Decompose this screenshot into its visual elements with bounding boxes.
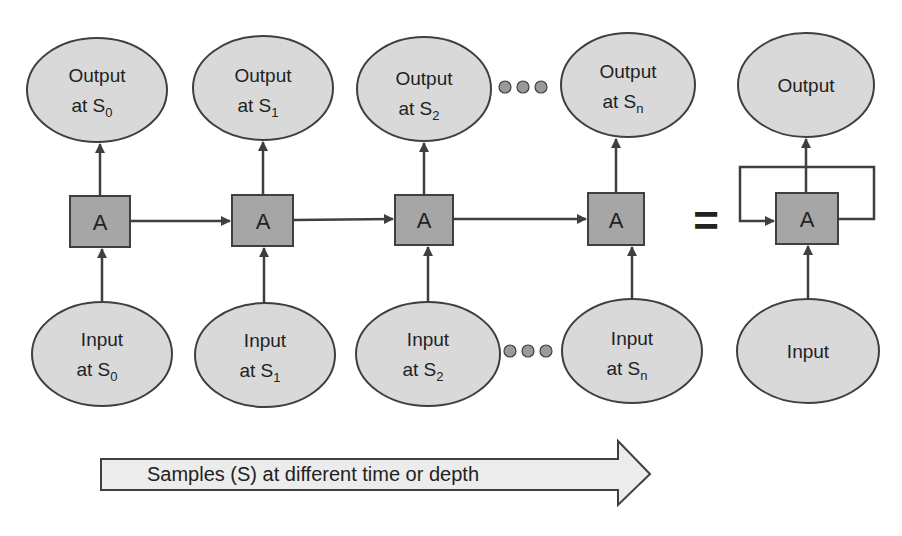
recurrent-chain-arrows — [131, 219, 586, 221]
input-label-at: at S — [76, 359, 110, 380]
input-node-sn: Input at Sn — [562, 299, 702, 403]
input-label-at: at S — [606, 358, 640, 379]
input-node-s0: Input at S0 — [32, 302, 172, 406]
output-label: Output — [777, 75, 835, 96]
input-label-at: at S — [402, 359, 436, 380]
input-node-rolled: Input — [737, 299, 879, 403]
output-node-s1: Output at S1 — [193, 36, 333, 140]
cell-a-s1: A — [232, 195, 293, 246]
output-label: Output — [68, 65, 126, 86]
input-label-at: at S — [239, 360, 273, 381]
subscript: n — [636, 101, 643, 116]
time-direction-arrow-banner: Samples (S) at different time or depth — [101, 441, 650, 505]
output-label: Output — [395, 68, 453, 89]
input-node-s2: Input at S2 — [356, 302, 500, 406]
input-label: Input — [787, 341, 830, 362]
output-node-sn: Output at Sn — [561, 33, 695, 137]
output-node-s2: Output at S2 — [357, 37, 491, 141]
output-label-at: at S — [602, 91, 636, 112]
subscript: n — [640, 368, 647, 383]
cell-a-sn: A — [588, 193, 644, 245]
subscript: 1 — [273, 370, 280, 385]
ellipsis-dots-icon — [499, 81, 547, 93]
equals-label: = — [693, 196, 719, 245]
cell-a-s2: A — [395, 195, 453, 245]
output-label: Output — [599, 61, 657, 82]
output-arrows — [100, 139, 806, 196]
ellipsis-dots-icon — [504, 345, 552, 357]
output-node-s0: Output at S0 — [27, 38, 167, 142]
input-label: Input — [611, 328, 654, 349]
input-node-s1: Input at S1 — [195, 303, 335, 407]
output-node-rolled: Output — [738, 33, 874, 137]
subscript: 0 — [105, 105, 112, 120]
cell-a-s0: A — [70, 196, 130, 247]
input-label: Input — [81, 329, 124, 350]
input-label: Input — [244, 330, 287, 351]
output-label-at: at S — [71, 95, 105, 116]
subscript: 0 — [110, 369, 117, 384]
output-label-at: at S — [237, 95, 271, 116]
rnn-diagram: Output at S0 Output at S1 Output at S2 O… — [0, 0, 902, 536]
cell-label: A — [417, 208, 432, 233]
output-label-at: at S — [398, 98, 432, 119]
cell-a-rolled: A — [776, 193, 838, 244]
subscript: 2 — [436, 369, 443, 384]
cell-label: A — [93, 210, 108, 235]
input-arrows — [102, 246, 808, 303]
equals-sign: = — [693, 196, 719, 245]
cell-label: A — [800, 207, 815, 232]
subscript: 2 — [432, 108, 439, 123]
input-label: Input — [407, 329, 450, 350]
banner-label: Samples (S) at different time or depth — [147, 463, 479, 485]
cell-label: A — [609, 208, 624, 233]
output-label: Output — [234, 65, 292, 86]
subscript: 1 — [271, 105, 278, 120]
cell-label: A — [256, 209, 271, 234]
